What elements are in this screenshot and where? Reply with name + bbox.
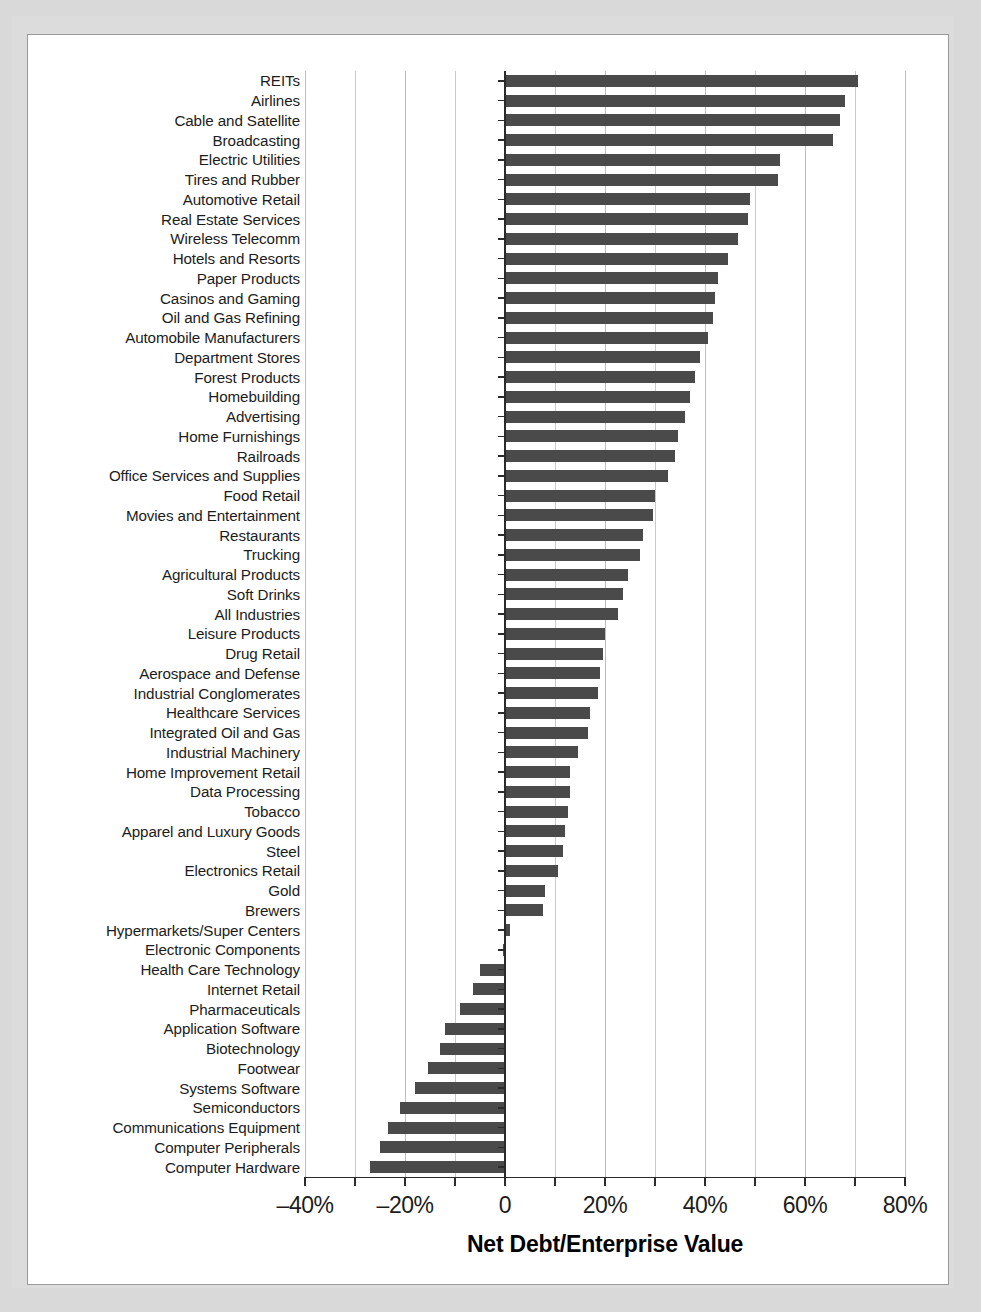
value-tick-30: [654, 1177, 656, 1186]
gridline-50: [755, 71, 756, 1177]
category-label: Electronics Retail: [184, 863, 300, 878]
bar: [505, 786, 570, 798]
category-label: Drug Retail: [225, 646, 300, 661]
category-label: Industrial Machinery: [166, 745, 300, 760]
category-label: Automobile Manufacturers: [125, 330, 300, 345]
category-label: Leisure Products: [188, 626, 300, 641]
bar: [505, 549, 640, 561]
bar: [505, 430, 678, 442]
category-label: Airlines: [251, 93, 300, 108]
bar: [440, 1043, 505, 1055]
value-tick-label: 60%: [783, 1192, 828, 1219]
category-label: Healthcare Services: [166, 705, 300, 720]
gridline-70: [855, 71, 856, 1177]
bar: [505, 411, 685, 423]
gridline--40: [305, 71, 306, 1177]
category-label: Gold: [268, 883, 300, 898]
category-label: Communications Equipment: [112, 1120, 300, 1135]
bar: [505, 608, 618, 620]
bar: [505, 667, 600, 679]
category-label: Home Improvement Retail: [126, 765, 300, 780]
category-label: Forest Products: [194, 370, 300, 385]
value-tick-label: 20%: [583, 1192, 628, 1219]
bar: [505, 95, 845, 107]
value-tick-label: –20%: [377, 1192, 434, 1219]
bar: [505, 371, 695, 383]
figure-panel: REITsAirlinesCable and SatelliteBroadcas…: [27, 34, 949, 1285]
bar: [505, 569, 628, 581]
bar-chart: REITsAirlinesCable and SatelliteBroadcas…: [28, 35, 948, 1284]
bar: [505, 687, 598, 699]
bar: [505, 351, 700, 363]
category-label: Tires and Rubber: [185, 172, 300, 187]
bar: [505, 845, 563, 857]
gridline-80: [905, 71, 906, 1177]
category-label: Data Processing: [190, 784, 300, 799]
category-label: Integrated Oil and Gas: [149, 725, 300, 740]
bar: [505, 391, 690, 403]
category-label: Tobacco: [244, 804, 300, 819]
category-label: Wireless Telecomm: [170, 231, 300, 246]
category-label: Oil and Gas Refining: [162, 310, 300, 325]
bar: [505, 648, 603, 660]
bar: [505, 193, 750, 205]
category-label: Health Care Technology: [140, 962, 300, 977]
bar: [505, 312, 713, 324]
bar: [505, 766, 570, 778]
category-label: Application Software: [164, 1021, 300, 1036]
value-tick-label: 0: [499, 1192, 511, 1219]
bar: [388, 1122, 506, 1134]
bar: [505, 174, 778, 186]
category-label: Advertising: [226, 409, 300, 424]
zero-axis-line: [504, 71, 506, 1177]
category-label: Movies and Entertainment: [126, 508, 300, 523]
category-label: Agricultural Products: [162, 567, 300, 582]
bar: [505, 509, 653, 521]
bar: [505, 332, 708, 344]
bar: [380, 1141, 505, 1153]
category-label: Casinos and Gaming: [160, 291, 300, 306]
category-label: Soft Drinks: [227, 587, 300, 602]
bar: [505, 865, 558, 877]
bar: [505, 825, 565, 837]
category-label: Hypermarkets/Super Centers: [106, 923, 300, 938]
category-label: Computer Hardware: [165, 1160, 300, 1175]
value-tick--20: [404, 1177, 406, 1186]
figure-page: REITsAirlinesCable and SatelliteBroadcas…: [0, 0, 981, 1312]
bar: [400, 1102, 505, 1114]
value-tick-0: [504, 1177, 506, 1186]
category-label: REITs: [260, 73, 300, 88]
bar: [505, 292, 715, 304]
bar: [505, 588, 623, 600]
category-label: Cable and Satellite: [174, 113, 300, 128]
bar: [505, 114, 840, 126]
category-label: Paper Products: [197, 271, 300, 286]
category-label: Biotechnology: [206, 1041, 300, 1056]
category-label: Department Stores: [174, 350, 300, 365]
category-label: Footwear: [237, 1061, 300, 1076]
category-axis-labels: REITsAirlinesCable and SatelliteBroadcas…: [36, 71, 300, 1177]
gridline--10: [455, 71, 456, 1177]
category-label: Broadcasting: [213, 133, 300, 148]
category-label: Computer Peripherals: [154, 1140, 300, 1155]
bar: [505, 75, 858, 87]
bar: [428, 1062, 506, 1074]
value-tick-label: –40%: [277, 1192, 334, 1219]
bar: [505, 924, 510, 936]
bar: [505, 134, 833, 146]
bar: [505, 628, 605, 640]
bar: [505, 490, 655, 502]
category-label: Food Retail: [223, 488, 300, 503]
value-tick-50: [754, 1177, 756, 1186]
value-tick--10: [454, 1177, 456, 1186]
gridline--30: [355, 71, 356, 1177]
value-axis-title: Net Debt/Enterprise Value: [305, 1231, 905, 1258]
category-label: Brewers: [245, 903, 300, 918]
bar: [505, 707, 590, 719]
value-tick-label: 80%: [883, 1192, 928, 1219]
bar: [370, 1161, 505, 1173]
category-label: Office Services and Supplies: [109, 468, 300, 483]
category-label: Pharmaceuticals: [189, 1002, 300, 1017]
category-label: Electronic Components: [145, 942, 300, 957]
bar: [505, 904, 543, 916]
